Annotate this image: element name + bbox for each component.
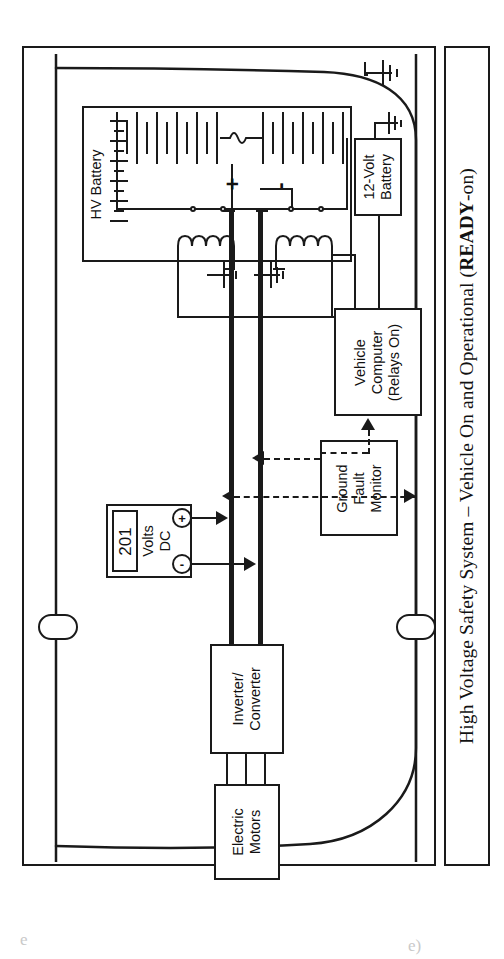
- chassis-ground-lead: [364, 74, 368, 76]
- battery-wire-right-vert: [346, 138, 348, 210]
- battery-12v-to-computer: [378, 216, 380, 308]
- voltmeter-terminal-positive: +: [172, 508, 192, 528]
- gfm-to-bus-arrow: [252, 451, 264, 465]
- gfm-chassis-arrow-left: [222, 489, 234, 503]
- battery-cell-icon-left: [116, 112, 220, 164]
- voltmeter-arrow-positive: [216, 511, 228, 525]
- diagram-frame: HV Battery: [22, 46, 436, 866]
- figure-caption-text: High Voltage Safety System – Vehicle On …: [456, 168, 478, 744]
- coil-icon: [176, 234, 236, 256]
- diagram-canvas: HV Battery: [24, 48, 438, 868]
- coil-lead-pos-left: [177, 252, 179, 318]
- scan-artifact-right: e): [408, 936, 421, 956]
- voltmeter-arrow-negative: [244, 557, 256, 571]
- contact-stem-neg: [291, 188, 293, 208]
- hv-bus-tap-positive: [223, 210, 235, 212]
- contact-bridge-neg: [260, 188, 292, 190]
- caption-prefix: High Voltage Safety System – Vehicle On …: [456, 271, 477, 744]
- polarity-positive-label: +: [225, 178, 241, 191]
- caption-suffix: -on): [456, 168, 477, 201]
- battery-12v-block: [354, 138, 402, 216]
- battery-cell-icon-right: [262, 112, 348, 164]
- figure-root: High Voltage Safety System – Vehicle On …: [0, 0, 504, 959]
- hv-bus-negative: [258, 210, 263, 680]
- phase-line-2: [245, 754, 247, 784]
- phase-line-3: [264, 754, 266, 784]
- gfm-to-computer-arrow: [361, 418, 375, 430]
- contact-icon: [190, 206, 196, 212]
- coil-return-pos: [177, 316, 355, 318]
- gfm-chassis-arrow-right: [404, 489, 416, 503]
- coil-return-neg: [331, 254, 355, 256]
- gfm-chassis-signal: [234, 496, 416, 498]
- electric-motors-block: [214, 784, 280, 880]
- hv-bus-tap-negative: [256, 210, 268, 212]
- scan-artifact-left: e: [20, 930, 28, 950]
- ground-icon: [374, 110, 408, 138]
- voltmeter-lead-negative: [192, 563, 244, 565]
- wheel-icon: [38, 614, 78, 640]
- caption-emphasis: READY: [456, 201, 477, 271]
- wheel-icon: [396, 614, 436, 640]
- voltmeter-terminal-negative: -: [172, 554, 192, 574]
- inverter-converter-block: [210, 644, 284, 754]
- figure-caption: High Voltage Safety System – Vehicle On …: [444, 46, 490, 866]
- vehicle-computer-block: [334, 308, 422, 416]
- coil-return-neg-vert: [354, 254, 356, 316]
- ground-fault-monitor-block: [320, 440, 398, 536]
- contact-icon: [318, 206, 324, 212]
- coil-icon: [274, 234, 334, 256]
- voltmeter-lead-positive: [192, 517, 216, 519]
- gfm-to-computer-signal-v: [368, 430, 370, 454]
- coil-lead-neg-right: [331, 252, 333, 318]
- battery-wire-left-vert: [116, 138, 118, 210]
- phase-line-1: [226, 754, 228, 784]
- ground-icon: [364, 58, 406, 88]
- voltmeter-display: [112, 510, 138, 572]
- gfm-to-computer-signal-h: [320, 452, 368, 454]
- ground-icon: [207, 260, 241, 290]
- hv-bus-positive: [229, 210, 234, 680]
- gfm-to-bus-signal: [264, 458, 320, 460]
- coil-ground-link-neg: [273, 268, 285, 270]
- fuse-icon: [220, 126, 264, 150]
